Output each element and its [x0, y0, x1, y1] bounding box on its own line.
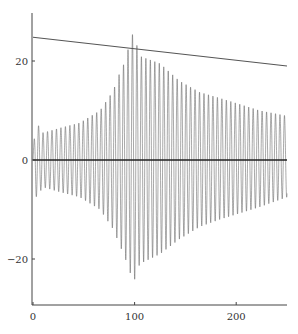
y-axis-ticks: −20020: [7, 56, 35, 265]
y-tick-label: −20: [7, 254, 28, 265]
upper-reference-line: [33, 37, 287, 66]
y-tick-label: 20: [15, 56, 28, 67]
x-tick-label: 100: [125, 311, 144, 322]
chart-canvas: 0100200 −20020: [0, 0, 298, 334]
x-tick-label: 0: [30, 311, 36, 322]
x-tick-label: 200: [227, 311, 246, 322]
y-tick-label: 0: [22, 155, 28, 166]
oscillating-signal: [33, 35, 287, 280]
